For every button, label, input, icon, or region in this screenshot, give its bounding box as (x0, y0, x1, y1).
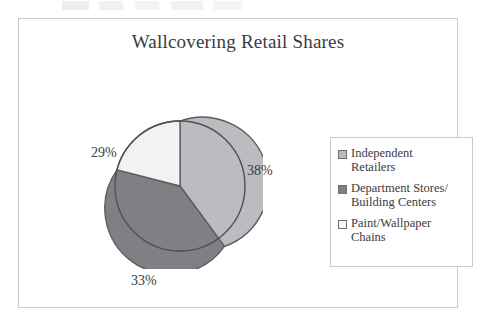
legend-item-paint-wallpaper-chains[interactable]: Paint/Wallpaper Chains (338, 216, 466, 244)
legend-label-independent-retailers: Independent Retailers (351, 146, 413, 174)
legend-label-department-stores: Department Stores/ Building Centers (351, 181, 448, 209)
data-label-department-stores: 33% (131, 273, 157, 289)
legend-swatch-icon-independent-retailers (338, 150, 347, 159)
data-label-paint-wallpaper-chains: 29% (91, 145, 117, 161)
legend-label-line2: Building Centers (351, 195, 436, 209)
data-label-independent-retailers: 38% (247, 163, 273, 179)
pie-chart (97, 103, 263, 269)
chart-legend: Independent Retailers Department Stores/… (330, 137, 473, 267)
legend-swatch-icon-department-stores (338, 185, 347, 194)
legend-label-line2: Retailers (351, 160, 395, 174)
screenshot-canvas: Wallcovering Retail Shares 38% 33% 29% (0, 0, 477, 332)
legend-label-line2: Chains (351, 230, 386, 244)
chart-frame: Wallcovering Retail Shares 38% 33% 29% (18, 18, 458, 308)
legend-item-independent-retailers[interactable]: Independent Retailers (338, 146, 466, 174)
legend-label-line1: Independent (351, 146, 413, 160)
pie-svg (97, 103, 263, 269)
legend-label-paint-wallpaper-chains: Paint/Wallpaper Chains (351, 216, 431, 244)
chart-title: Wallcovering Retail Shares (19, 31, 457, 53)
legend-swatch-icon-paint-wallpaper-chains (338, 220, 347, 229)
legend-item-department-stores[interactable]: Department Stores/ Building Centers (338, 181, 466, 209)
scan-artifact (62, 1, 242, 10)
legend-label-line1: Paint/Wallpaper (351, 216, 431, 230)
legend-label-line1: Department Stores/ (351, 181, 448, 195)
